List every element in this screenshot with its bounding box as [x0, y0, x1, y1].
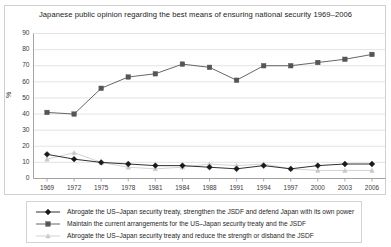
x-tick-label: 1988	[195, 184, 225, 191]
data-point	[261, 63, 266, 68]
data-point	[72, 112, 77, 117]
data-point	[370, 52, 375, 57]
y-tick-label: 90	[10, 30, 30, 37]
data-point	[234, 78, 239, 83]
y-tick-label: 50	[10, 95, 30, 102]
x-tick-label: 1997	[276, 184, 306, 191]
x-tick-label: 1978	[113, 184, 143, 191]
data-point	[315, 163, 321, 169]
legend-item[interactable]: Abrogate the US–Japan security treaty an…	[27, 230, 363, 242]
x-tick-label: 2006	[357, 184, 387, 191]
legend-marker-icon	[33, 230, 63, 242]
y-tick-label: 70	[10, 62, 30, 69]
data-series	[45, 52, 375, 116]
data-point	[207, 65, 212, 70]
x-tick-label: 1975	[86, 184, 116, 191]
x-tick-label: 1994	[249, 184, 279, 191]
y-tick-label: 0	[10, 175, 30, 182]
y-tick-label: 80	[10, 46, 30, 53]
data-point	[153, 71, 158, 76]
data-point	[342, 161, 348, 167]
x-tick-label: 1969	[32, 184, 62, 191]
y-tick-label: 30	[10, 127, 30, 134]
data-point	[152, 163, 158, 169]
legend-label: Maintain the current arrangements for th…	[67, 219, 306, 228]
series-layer	[44, 52, 375, 172]
data-point	[71, 156, 77, 162]
data-point	[261, 163, 267, 169]
legend-label: Abrogate the US–Japan security treaty an…	[67, 231, 314, 240]
data-point	[369, 161, 375, 167]
legend-marker-icon	[33, 206, 63, 218]
legend-label: Abrogate the US–Japan security treaty, s…	[67, 207, 354, 216]
y-tick-label: 10	[10, 159, 30, 166]
data-point	[316, 60, 321, 65]
legend-item[interactable]: Maintain the current arrangements for th…	[27, 218, 363, 230]
x-tick-label: 2000	[303, 184, 333, 191]
y-tick-label: 20	[10, 143, 30, 150]
data-point	[288, 63, 293, 68]
data-point	[99, 86, 104, 91]
x-tick-label: 1981	[140, 184, 170, 191]
x-tick-label: 1984	[167, 184, 197, 191]
x-tick-label: 1972	[59, 184, 89, 191]
chart-legend: Abrogate the US–Japan security treaty, s…	[26, 201, 362, 243]
data-point	[343, 57, 348, 62]
data-point	[125, 161, 131, 167]
legend-marker-icon	[33, 218, 63, 230]
data-point	[72, 150, 77, 154]
data-point	[45, 110, 50, 115]
data-point	[126, 75, 131, 80]
y-tick-label: 60	[10, 79, 30, 86]
x-tick-label: 2003	[330, 184, 360, 191]
chart-figure: Japanese public opinion regarding the be…	[0, 0, 391, 247]
x-tick-label: 1991	[222, 184, 252, 191]
data-point	[180, 62, 185, 67]
legend-item[interactable]: Abrogate the US–Japan security treaty, s…	[27, 206, 363, 218]
y-tick-label: 40	[10, 111, 30, 118]
data-point	[44, 151, 50, 157]
